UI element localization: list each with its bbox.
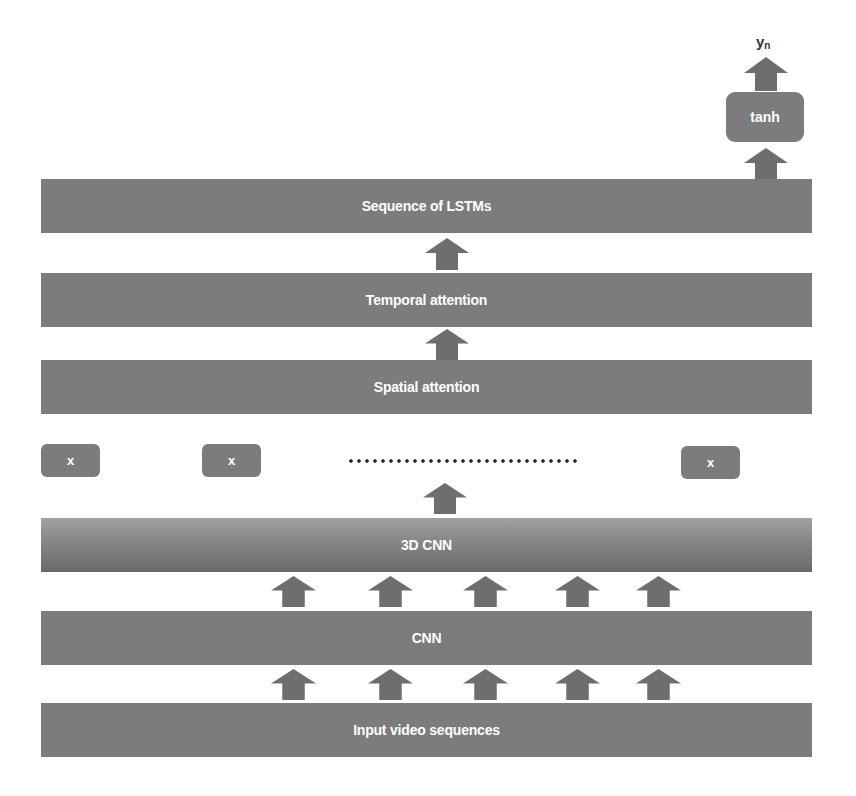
up-arrow-icon — [425, 329, 469, 360]
tanh-label: tanh — [750, 109, 780, 125]
tanh-activation-box: tanh — [726, 92, 804, 142]
layer-spatial-attention-label: Spatial attention — [374, 379, 480, 395]
up-arrow-icon — [271, 576, 316, 607]
up-arrow-icon — [463, 669, 508, 700]
multiply-node: x — [202, 444, 261, 477]
multiply-node-label: x — [67, 453, 74, 468]
up-arrow-icon — [463, 576, 508, 607]
up-arrow-icon — [271, 669, 316, 700]
up-arrow-icon — [555, 576, 600, 607]
up-arrow-icon — [636, 576, 681, 607]
layer-lstm-label: Sequence of LSTMs — [362, 198, 492, 214]
multiply-node-label: x — [707, 455, 714, 470]
output-label-yn: yn — [756, 33, 770, 51]
ellipsis-dotted-line — [347, 459, 577, 463]
output-label-subscript: n — [764, 40, 770, 51]
layer-lstm: Sequence of LSTMs — [41, 179, 812, 233]
up-arrow-icon — [744, 57, 788, 91]
multiply-node-label: x — [228, 453, 235, 468]
up-arrow-icon — [368, 576, 413, 607]
layer-temporal-attention: Temporal attention — [41, 273, 812, 327]
up-arrow-icon — [368, 669, 413, 700]
layer-3d-cnn: 3D CNN — [41, 518, 812, 572]
layer-3d-cnn-label: 3D CNN — [401, 537, 452, 553]
up-arrow-icon — [636, 669, 681, 700]
up-arrow-icon — [425, 238, 469, 270]
layer-input-video: Input video sequences — [41, 703, 812, 757]
multiply-node: x — [681, 446, 740, 479]
multiply-node: x — [41, 444, 100, 477]
layer-spatial-attention: Spatial attention — [41, 360, 812, 414]
layer-cnn-label: CNN — [412, 630, 442, 646]
layer-input-video-label: Input video sequences — [353, 722, 500, 738]
up-arrow-icon — [555, 669, 600, 700]
layer-temporal-attention-label: Temporal attention — [366, 292, 487, 308]
up-arrow-icon — [744, 148, 788, 180]
up-arrow-icon — [423, 483, 467, 514]
layer-cnn: CNN — [41, 611, 812, 665]
